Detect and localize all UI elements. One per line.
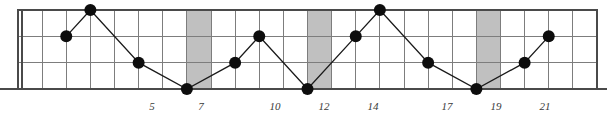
data-point-marker[interactable] <box>133 57 145 69</box>
x-axis-tick-label-7: 7 <box>188 100 214 112</box>
x-axis-tick-label-5: 5 <box>139 100 165 112</box>
data-point-marker[interactable] <box>470 83 482 95</box>
x-axis-tick-label-21: 21 <box>532 100 558 112</box>
x-axis-tick-label-19: 19 <box>483 100 509 112</box>
plot-border <box>0 10 607 89</box>
data-point-marker[interactable] <box>60 30 72 42</box>
x-axis-tick-label-17: 17 <box>434 100 460 112</box>
data-point-marker[interactable] <box>302 83 314 95</box>
data-point-marker[interactable] <box>519 57 531 69</box>
data-point-marker[interactable] <box>181 83 193 95</box>
line-chart: 57101214171921 <box>0 0 607 123</box>
shaded-column-12 <box>308 10 332 89</box>
x-axis-tick-label-14: 14 <box>360 100 386 112</box>
chart-canvas <box>0 0 607 123</box>
data-point-marker[interactable] <box>229 57 241 69</box>
data-point-marker[interactable] <box>84 4 96 16</box>
grid-lines <box>18 10 597 89</box>
data-point-marker[interactable] <box>374 4 386 16</box>
data-point-marker[interactable] <box>422 57 434 69</box>
data-point-marker[interactable] <box>350 30 362 42</box>
data-point-marker[interactable] <box>253 30 265 42</box>
x-axis-tick-label-12: 12 <box>311 100 337 112</box>
x-axis-tick-label-10: 10 <box>262 100 288 112</box>
data-point-marker[interactable] <box>543 30 555 42</box>
